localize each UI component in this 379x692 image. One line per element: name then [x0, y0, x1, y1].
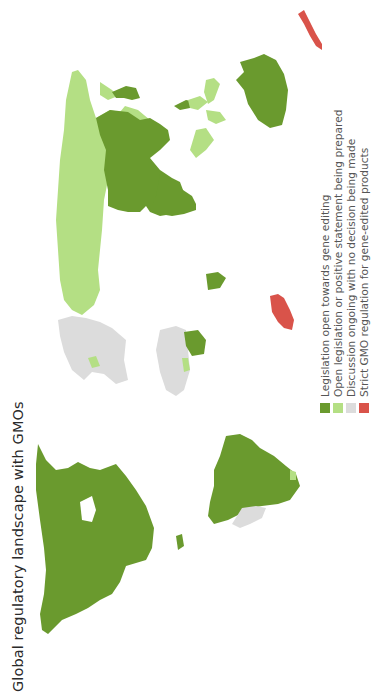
region-north-america	[36, 444, 154, 634]
map-title: Global regulatory landscape with GMOs	[10, 401, 26, 692]
region-philippines	[190, 128, 214, 158]
legend: Legislation open towards gene editing Op…	[318, 110, 370, 413]
region-caribbean	[176, 534, 184, 550]
region-africa-north	[58, 316, 128, 384]
region-se-asia	[204, 78, 220, 104]
legend-item-preparing: Open legislation or positive statement b…	[331, 110, 344, 413]
legend-label: Open legislation or positive statement b…	[332, 110, 344, 397]
legend-swatch-strict	[359, 403, 369, 413]
legend-item-discussion: Discussion ongoing with no decision bein…	[344, 110, 357, 413]
legend-item-open: Legislation open towards gene editing	[318, 110, 331, 413]
region-madagascar	[270, 294, 294, 330]
region-small-open	[206, 272, 226, 290]
legend-swatch-open	[320, 403, 330, 413]
legend-swatch-preparing	[333, 403, 343, 413]
region-australia	[236, 54, 288, 128]
legend-label: Discussion ongoing with no decision bein…	[345, 139, 357, 397]
legend-swatch-discussion	[346, 403, 356, 413]
region-png	[188, 96, 208, 110]
region-arctic-islands	[112, 86, 140, 100]
legend-item-strict: Strict GMO regulation for gene-edited pr…	[357, 110, 370, 413]
legend-label: Strict GMO regulation for gene-edited pr…	[358, 148, 370, 397]
legend-label: Legislation open towards gene editing	[319, 195, 331, 397]
region-uruguay	[290, 470, 296, 480]
region-new-zealand	[298, 10, 322, 50]
region-indonesia	[206, 110, 226, 124]
